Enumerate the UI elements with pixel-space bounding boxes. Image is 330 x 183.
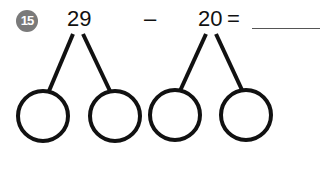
part-circle[interactable] [18,91,68,141]
part-circle[interactable] [90,91,140,141]
bond-line [83,34,110,91]
bond-line [49,34,73,91]
bond-line [180,34,206,91]
part-circle[interactable] [150,90,200,140]
part-circle[interactable] [221,90,271,140]
bond-line [216,34,242,90]
number-bond-diagram [0,0,330,183]
